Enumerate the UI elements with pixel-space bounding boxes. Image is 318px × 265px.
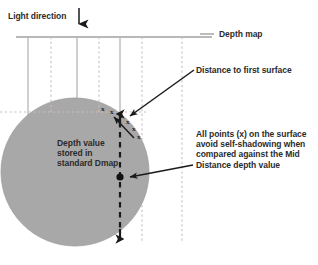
surface-point-marker: x (137, 133, 141, 141)
surface-point-marker: x (119, 112, 123, 120)
leader-distance-to-first-surface (130, 70, 194, 116)
label-depth-map: Depth map (219, 29, 262, 39)
surface-point-marker: x (101, 105, 105, 113)
surface-point-marker: x (132, 125, 136, 133)
depth-map-diagram: x x x x x x Light direction Depth map Di… (0, 0, 318, 265)
surface-point-marker: x (126, 118, 130, 126)
mid-distance-dot (116, 173, 123, 180)
label-distance-to-first-surface: Distance to first surface (196, 65, 292, 75)
surface-point-marker: x (110, 108, 114, 116)
label-light-direction: Light direction (8, 11, 66, 21)
label-all-points-note: All points (x) on the surface avoid self… (196, 129, 306, 170)
label-depth-value-stored: Depth value stored in standard Dmap (57, 138, 118, 169)
